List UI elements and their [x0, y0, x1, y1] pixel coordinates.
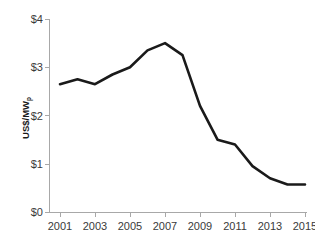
y-axis-title-subscript: p — [25, 97, 33, 101]
x-tick-label-2003: 2003 — [83, 220, 107, 232]
x-tick-label-2001: 2001 — [48, 220, 72, 232]
data-series-line — [60, 43, 305, 184]
y-axis-tick-labels: $0 $1 $2 $3 $4 — [31, 13, 43, 218]
x-tick-label-2009: 2009 — [188, 220, 212, 232]
y-axis-ticks — [45, 19, 50, 213]
y-tick-label-0: $0 — [31, 206, 43, 218]
x-tick-label-2007: 2007 — [153, 220, 177, 232]
y-tick-label-1: $1 — [31, 158, 43, 170]
x-tick-label-2013: 2013 — [258, 220, 282, 232]
y-axis-title-text: US$/MW — [20, 101, 31, 139]
x-tick-label-2011: 2011 — [223, 220, 247, 232]
y-tick-label-2: $2 — [31, 110, 43, 122]
x-axis-ticks — [60, 213, 305, 218]
y-tick-label-3: $3 — [31, 61, 43, 73]
y-tick-label-4: $4 — [31, 13, 43, 25]
x-tick-label-2005: 2005 — [118, 220, 142, 232]
chart-figure: US$/MWp $0 $1 $2 $3 $4 — [0, 0, 315, 239]
x-tick-label-2015: 2015 — [293, 220, 315, 232]
x-axis-tick-labels: 2001 2003 2005 2007 2009 2011 2013 2015 — [48, 220, 315, 232]
line-chart: US$/MWp $0 $1 $2 $3 $4 — [0, 0, 315, 239]
